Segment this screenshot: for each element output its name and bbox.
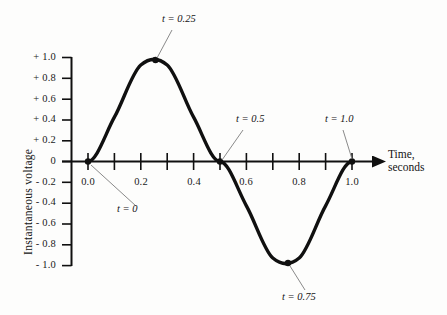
y-tick-label-1.0: + 1.0 — [22, 51, 56, 62]
leader-t-05 — [222, 130, 243, 160]
annotation-t-025: t = 0.25 — [162, 13, 196, 24]
y-tick-label--0.6: - 0.6 — [22, 217, 56, 228]
leader-t-075 — [290, 266, 305, 290]
annotation-t-075: t = 0.75 — [282, 291, 316, 302]
marker-t-075 — [285, 260, 291, 266]
y-tick-label-0.2: + 0.2 — [22, 134, 56, 145]
sine-wave-figure: Instantaneous voltage Time, seconds + 1.… — [0, 0, 447, 315]
x-tick-label-0.4: 0.4 — [177, 176, 211, 187]
marker-t-0 — [85, 158, 91, 164]
x-axis-title: Time, seconds — [388, 148, 424, 174]
y-tick-label--0.2: - 0.2 — [22, 176, 56, 187]
x-axis-title-line1: Time, — [388, 148, 424, 161]
annotation-t-0: t = 0 — [117, 203, 138, 214]
x-tick-label-0.6: 0.6 — [229, 176, 263, 187]
annotation-t-10: t = 1.0 — [325, 113, 353, 124]
y-tick-label-0.8: + 0.8 — [22, 72, 56, 83]
marker-t-10 — [349, 158, 355, 164]
x-tick-label-0.8: 0.8 — [282, 176, 316, 187]
chart-plot-area — [0, 0, 447, 315]
x-tick-label-0.2: 0.2 — [124, 176, 158, 187]
y-tick-label--0.8: - 0.8 — [22, 238, 56, 249]
y-tick-label-0: 0 — [22, 155, 56, 166]
annotation-t-05: t = 0.5 — [236, 113, 264, 124]
y-tick-label--1.0: - 1.0 — [22, 259, 56, 270]
y-axis-ticks — [62, 58, 72, 266]
x-tick-label-1.0: 1.0 — [335, 176, 369, 187]
x-axis-title-line2: seconds — [388, 161, 424, 174]
x-tick-label-0.0: 0.0 — [71, 176, 105, 187]
y-tick-label--0.4: - 0.4 — [22, 196, 56, 207]
marker-t-025 — [152, 57, 158, 63]
leader-t-10 — [343, 130, 352, 159]
leader-t-025 — [157, 30, 172, 58]
y-tick-label-0.6: + 0.6 — [22, 93, 56, 104]
y-tick-label-0.4: + 0.4 — [22, 113, 56, 124]
